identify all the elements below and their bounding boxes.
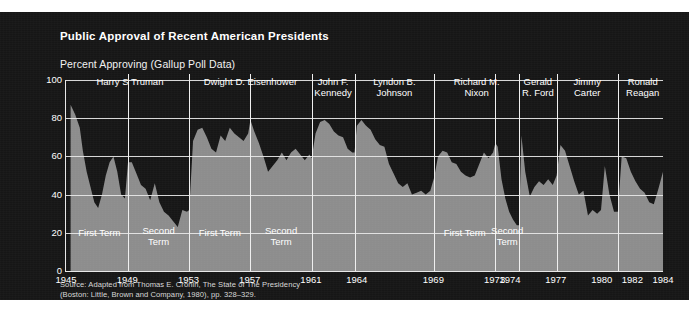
term-divider xyxy=(250,74,251,271)
x-tick-1977: 1977 xyxy=(545,275,566,285)
x-tick-1982: 1982 xyxy=(622,275,643,285)
term-label: SecondTerm xyxy=(491,225,523,247)
gridline-40 xyxy=(66,195,663,196)
term-label: First Term xyxy=(199,227,241,238)
y-tick-20: 20 xyxy=(51,228,62,238)
y-tick-40: 40 xyxy=(51,190,62,200)
y-tick-100: 100 xyxy=(46,75,62,85)
x-tick-1949: 1949 xyxy=(117,275,138,285)
divider-ronald-reagan xyxy=(618,74,619,271)
president-label-jimmy-carter: JimmyCarter xyxy=(573,76,600,98)
y-tick-60: 60 xyxy=(51,152,62,162)
x-tick-1953: 1953 xyxy=(178,275,199,285)
x-tick-1974: 1974 xyxy=(499,275,520,285)
x-tick-1961: 1961 xyxy=(300,275,321,285)
divider-dwight-d-eisenhower xyxy=(189,74,190,271)
chart-title: Public Approval of Recent American Presi… xyxy=(60,30,329,42)
divider-jimmy-carter xyxy=(557,74,558,271)
president-label-john-f-kennedy: John F.Kennedy xyxy=(314,76,352,98)
term-label: SecondTerm xyxy=(142,225,174,247)
x-tick-1964: 1964 xyxy=(346,275,367,285)
president-label-ronald-reagan: RonaldReagan xyxy=(626,76,659,98)
chart-panel: Public Approval of Recent American Presi… xyxy=(0,12,689,300)
president-label-gerald-r-ford: GeraldR. Ford xyxy=(522,76,554,98)
x-tick-1984: 1984 xyxy=(652,275,673,285)
figure-container: Public Approval of Recent American Presi… xyxy=(0,0,689,321)
term-label: First Term xyxy=(78,227,120,238)
term-label: First Term xyxy=(444,227,486,238)
y-axis-line xyxy=(65,80,66,271)
president-label-harry-s-truman: Harry S Truman xyxy=(96,76,163,87)
term-label: SecondTerm xyxy=(265,225,297,247)
divider-lyndon-b-johnson xyxy=(355,74,356,271)
gridline-60 xyxy=(66,156,663,157)
divider-richard-m-nixon xyxy=(434,74,435,271)
x-tick-1957: 1957 xyxy=(239,275,260,285)
source-line-2: (Boston: Little, Brown and Company, 1980… xyxy=(60,290,256,299)
plot-area: 020406080100 194519491953195719611964196… xyxy=(66,80,663,271)
y-tick-80: 80 xyxy=(51,113,62,123)
chart-subtitle: Percent Approving (Gallup Poll Data) xyxy=(60,58,235,70)
x-tick-1969: 1969 xyxy=(423,275,444,285)
president-label-lyndon-b-johnson: Lyndon B.Johnson xyxy=(373,76,415,98)
president-label-richard-m-nixon: Richard M.Nixon xyxy=(454,76,500,98)
term-divider xyxy=(128,74,129,271)
x-tick-1945: 1945 xyxy=(55,275,76,285)
x-axis-line xyxy=(65,271,663,272)
gridline-80 xyxy=(66,118,663,119)
x-tick-1980: 1980 xyxy=(591,275,612,285)
divider-john-f-kennedy xyxy=(312,74,313,271)
president-label-dwight-d-eisenhower: Dwight D. Eisenhower xyxy=(204,76,297,87)
